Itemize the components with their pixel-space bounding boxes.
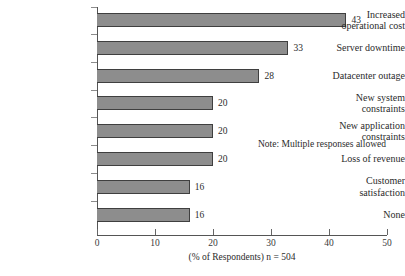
- x-axis-tick: [155, 229, 156, 235]
- x-axis-title: (% of Respondents) n = 504: [97, 252, 387, 262]
- y-axis-tick: [91, 34, 97, 35]
- x-axis-tick: [213, 229, 214, 235]
- bar-value-label: 20: [218, 96, 228, 110]
- bar: [97, 41, 288, 55]
- x-axis-tick: [271, 229, 272, 235]
- category-label: Increased operational cost: [313, 9, 405, 32]
- chart-annotation-note: Note: Multiple responses allowed: [258, 139, 386, 149]
- bar-value-label: 20: [218, 124, 228, 138]
- bar: [97, 96, 213, 110]
- category-label: Loss of revenue: [313, 153, 405, 165]
- bar-value-label: 33: [293, 41, 303, 55]
- y-axis-tick: [91, 62, 97, 63]
- bar-value-label: 16: [195, 180, 205, 194]
- x-axis-tick-label: 50: [382, 238, 392, 248]
- x-axis-tick-label: 0: [95, 238, 100, 248]
- x-axis-tick: [387, 229, 388, 235]
- x-axis-tick-label: 10: [150, 238, 160, 248]
- x-axis-tick-label: 20: [208, 238, 218, 248]
- y-axis-tick: [91, 90, 97, 91]
- category-label: Customer satisfaction: [313, 175, 405, 198]
- bar: [97, 208, 190, 222]
- x-axis-tick: [97, 229, 98, 235]
- bar-chart: 01020304050 4333282020201616 Increased o…: [0, 0, 405, 276]
- x-axis-tick: [329, 229, 330, 235]
- bar-value-label: 16: [195, 208, 205, 222]
- x-axis-tick-label: 30: [266, 238, 276, 248]
- y-axis-tick: [91, 173, 97, 174]
- y-axis-tick: [91, 201, 97, 202]
- plot-area: 01020304050 4333282020201616 Increased o…: [0, 0, 405, 276]
- y-axis-tick: [91, 117, 97, 118]
- y-axis-tick: [91, 7, 97, 8]
- bar: [97, 69, 259, 83]
- bar-value-label: 28: [264, 69, 274, 83]
- bar: [97, 152, 213, 166]
- bar: [97, 180, 190, 194]
- x-axis-tick-label: 40: [324, 238, 334, 248]
- x-axis-line: [97, 235, 387, 236]
- y-axis-tick: [91, 145, 97, 146]
- category-label: Server downtime: [313, 42, 405, 54]
- category-label: New system constraints: [313, 92, 405, 115]
- category-label: None: [313, 209, 405, 221]
- category-label: Datacenter outage: [313, 70, 405, 82]
- bar-value-label: 20: [218, 152, 228, 166]
- bar: [97, 13, 346, 27]
- bar: [97, 124, 213, 138]
